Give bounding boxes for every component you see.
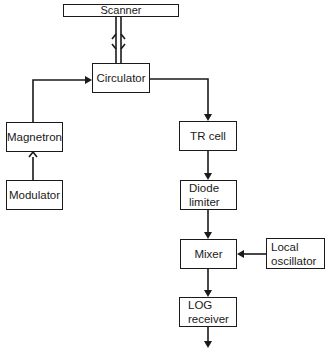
arrow-modulator-to-magnetron xyxy=(29,152,37,180)
local-oscillator-label-line2: oscillator xyxy=(271,254,316,268)
magnetron-label: Magnetron xyxy=(7,130,62,144)
log-receiver-label-line2: receiver xyxy=(188,312,229,326)
mixer-label: Mixer xyxy=(194,247,222,261)
arrow-circulator-to-tr-cell xyxy=(150,79,212,121)
scanner-block: Scanner xyxy=(63,4,179,17)
circulator-block: Circulator xyxy=(92,63,150,93)
connector-lines xyxy=(0,0,328,349)
arrow-diode-limiter-to-mixer xyxy=(204,210,212,239)
arrow-mixer-to-log-receiver xyxy=(204,269,212,297)
local-oscillator-label-line1: Local xyxy=(271,240,299,254)
magnetron-block: Magnetron xyxy=(6,122,63,152)
diode-limiter-block: Diode limiter xyxy=(180,180,237,210)
circulator-label: Circulator xyxy=(96,71,145,85)
diode-limiter-label-line2: limiter xyxy=(189,195,220,209)
diode-limiter-label-line1: Diode xyxy=(189,181,219,195)
scanner-label: Scanner xyxy=(101,5,142,16)
log-receiver-label-line1: LOG xyxy=(188,298,212,312)
tr-cell-label: TR cell xyxy=(190,129,226,143)
modulator-block: Modulator xyxy=(6,180,63,210)
arrow-magnetron-to-circulator xyxy=(33,76,92,122)
tr-cell-block: TR cell xyxy=(179,121,237,151)
mixer-block: Mixer xyxy=(180,239,237,269)
waveguide-bidirectional-arrow xyxy=(112,16,125,63)
arrow-local-oscillator-to-mixer xyxy=(237,250,266,258)
arrow-tr-cell-to-diode-limiter xyxy=(204,151,212,180)
modulator-label: Modulator xyxy=(9,188,60,202)
arrow-log-receiver-output xyxy=(204,327,212,348)
log-receiver-block: LOG receiver xyxy=(179,297,237,327)
local-oscillator-block: Local oscillator xyxy=(266,238,325,269)
